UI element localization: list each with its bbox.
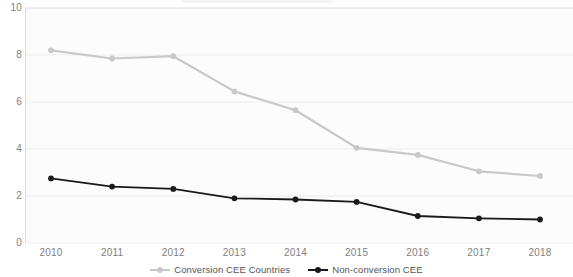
x-axis-tick-label: 2010 [29, 247, 73, 258]
x-axis-tick-label: 2011 [90, 247, 134, 258]
x-axis-tick-label: 2018 [518, 247, 562, 258]
plot-background [25, 8, 573, 243]
line-chart: 1086420 20102011201220132014201520162017… [0, 0, 573, 277]
legend-item-label: Non-conversion CEE [332, 264, 423, 275]
data-point[interactable] [415, 213, 421, 219]
legend-item-non-conversion-cee[interactable]: Non-conversion CEE [308, 264, 423, 275]
legend-item-conversion-cee-countries[interactable]: Conversion CEE Countries [150, 264, 290, 275]
x-axis-tick-label: 2012 [151, 247, 195, 258]
data-point[interactable] [170, 186, 176, 192]
x-axis-tick-label: 2015 [335, 247, 379, 258]
data-point[interactable] [232, 89, 238, 95]
x-axis-tick-label: 2013 [212, 247, 256, 258]
plot-area [0, 0, 573, 277]
data-point[interactable] [537, 217, 543, 223]
data-point[interactable] [170, 53, 176, 59]
data-point[interactable] [48, 176, 54, 182]
y-axis-tick-label: 4 [0, 143, 22, 154]
legend-dot [157, 267, 163, 273]
x-axis-tick-label: 2017 [457, 247, 501, 258]
data-point[interactable] [109, 184, 115, 190]
y-axis-tick-label: 2 [0, 190, 22, 201]
data-point[interactable] [415, 152, 421, 158]
x-axis-tick-label: 2016 [396, 247, 440, 258]
legend-dot [315, 267, 321, 273]
legend-item-label: Conversion CEE Countries [174, 264, 290, 275]
data-point[interactable] [476, 168, 482, 174]
y-axis-tick-label: 10 [0, 2, 22, 13]
data-point[interactable] [354, 145, 360, 151]
data-point[interactable] [476, 215, 482, 221]
data-point[interactable] [48, 47, 54, 53]
data-point[interactable] [293, 197, 299, 203]
x-axis-tick-label: 2014 [274, 247, 318, 258]
chart-legend: Conversion CEE Countries Non-conversion … [0, 262, 573, 277]
data-point[interactable] [232, 195, 238, 201]
data-point[interactable] [109, 56, 115, 62]
y-axis-tick-label: 6 [0, 96, 22, 107]
line-dot-icon [308, 265, 328, 274]
y-axis-tick-label: 0 [0, 237, 22, 248]
data-point[interactable] [354, 199, 360, 205]
data-point[interactable] [537, 173, 543, 179]
y-axis-tick-label: 8 [0, 49, 22, 60]
data-point[interactable] [293, 107, 299, 113]
line-dot-icon [150, 265, 170, 274]
